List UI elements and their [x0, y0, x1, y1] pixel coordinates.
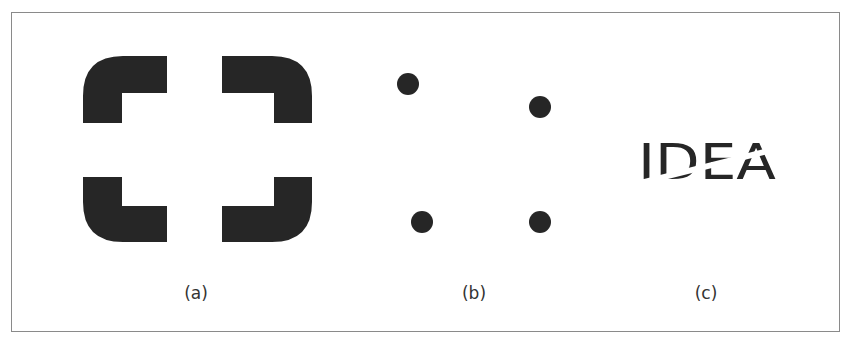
dot-bottom-right: [529, 211, 551, 233]
panel-c-idea-word: IDEA IDEA: [638, 133, 776, 191]
dot-bottom-left: [411, 211, 433, 233]
dot-top-right: [529, 96, 551, 118]
bracket-top-left: [83, 56, 167, 123]
caption-b: (b): [462, 283, 486, 303]
panel-a-brackets: [83, 56, 312, 242]
panel-b-dots: [397, 73, 551, 233]
caption-c: (c): [695, 283, 718, 303]
bracket-top-right: [222, 56, 312, 123]
figure-graphics: IDEA IDEA: [0, 0, 852, 346]
bracket-bottom-left: [83, 177, 167, 242]
dot-top-left: [397, 73, 419, 95]
bracket-bottom-right: [222, 177, 312, 242]
caption-a: (a): [184, 283, 208, 303]
